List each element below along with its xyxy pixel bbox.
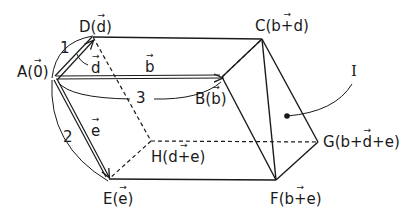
vertex-label-F: F(b+e) (270, 192, 322, 207)
parallelepiped-diagram (0, 0, 414, 220)
vector-label-d: d (91, 61, 101, 76)
plane-label-I: I (351, 64, 357, 79)
vector-label-b: b (145, 60, 155, 75)
edge-HE (109, 141, 151, 179)
arc-angle-d (77, 54, 88, 65)
edge-EF (109, 179, 276, 180)
hidden-edges (93, 37, 318, 179)
vertex-label-D: D(d) (79, 20, 112, 35)
solid-edges (93, 37, 318, 180)
vertex-label-C: C(b+d) (255, 19, 309, 34)
plane-point-dot (284, 113, 290, 119)
vertex-label-E: E(e) (103, 192, 133, 207)
arc-label-3: 3 (136, 91, 146, 106)
arc-label-1: 1 (60, 41, 70, 56)
vertex-label-H: H(d+e) (151, 150, 205, 165)
edge-HG (151, 141, 318, 142)
leader-I (287, 84, 352, 116)
arc-label-2: 2 (63, 130, 73, 145)
vertex-label-G: G(b+d+e) (323, 135, 400, 150)
vertex-label-A: A(0) (17, 65, 49, 80)
vector-label-e: e (91, 124, 100, 139)
edge-DC (93, 37, 262, 39)
vertex-label-B: B(b) (195, 92, 227, 107)
vector-b (56, 75, 222, 79)
edge-GF (276, 142, 318, 180)
